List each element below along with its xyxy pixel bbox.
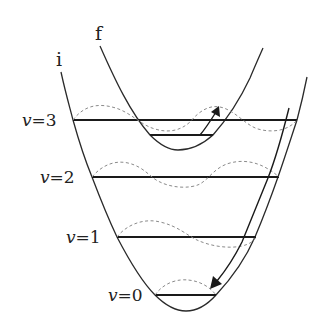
state-label-f: f (95, 22, 104, 44)
level-label-v0: v=0 (108, 285, 143, 305)
level-label-v3: v=3 (22, 110, 57, 130)
wavefunction-v3 (73, 105, 297, 131)
level-label-v2: v=2 (40, 167, 75, 187)
state-label-i: i (56, 48, 62, 70)
excitation-arrowhead-icon (211, 106, 220, 117)
excitation-arrow (200, 112, 216, 135)
relaxation-arrow (217, 108, 289, 281)
wavefunction-v0 (155, 280, 216, 295)
potential-curve-i (61, 72, 307, 311)
wavefunction-v1 (117, 221, 256, 247)
potential-energy-diagram: i f v=3 v=2 v=1 v=0 (0, 0, 321, 329)
level-label-v1: v=1 (66, 227, 101, 247)
wavefunction-v2 (92, 161, 279, 187)
